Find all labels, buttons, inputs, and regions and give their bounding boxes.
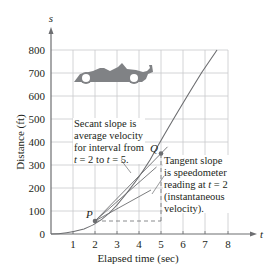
secant-line-3: for interval from (74, 142, 144, 153)
tangent-line (95, 190, 151, 221)
tangent-line-1: Tangent slope (164, 155, 223, 166)
secant-line-1: Secant slope is (74, 118, 136, 129)
x-tick-4: 4 (136, 238, 142, 250)
tangent-line-4: (instantaneous (164, 191, 225, 203)
distance-time-chart: 0 100 200 300 400 500 600 700 800 1 2 3 … (0, 0, 273, 277)
y-tick-100: 100 (29, 205, 46, 217)
x-tick-2: 2 (92, 238, 98, 250)
y-axis-title: Distance (ft) (14, 114, 27, 170)
tangent-line-3: reading at t = 2 (164, 179, 228, 190)
point-q-label: Q (150, 142, 158, 154)
x-axis-title: Elapsed time (sec) (97, 252, 179, 265)
point-p-marker (93, 219, 98, 224)
tangent-pointer (152, 176, 164, 194)
t-axis-symbol: t (260, 228, 264, 240)
y-tick-400: 400 (29, 136, 46, 148)
y-tick-300: 300 (29, 159, 46, 171)
x-tick-7: 7 (202, 238, 208, 250)
tangent-line-5: velocity). (164, 203, 204, 215)
y-axis-arrow-icon (49, 27, 54, 34)
y-tick-800: 800 (29, 44, 46, 56)
x-tick-5: 5 (158, 238, 164, 250)
y-tick-500: 500 (29, 113, 46, 125)
point-p-label: P (85, 208, 93, 220)
y-tick-700: 700 (29, 67, 46, 79)
secant-line-4: t = 2 to t = 5. (74, 154, 129, 165)
x-tick-3: 3 (114, 238, 120, 250)
y-tick-200: 200 (29, 182, 46, 194)
y-tick-labels: 0 100 200 300 400 500 600 700 800 (29, 44, 46, 240)
tangent-line-2: is speedometer (164, 167, 227, 178)
y-tick-600: 600 (29, 90, 46, 102)
y-tick-0: 0 (40, 228, 46, 240)
point-q-marker (159, 151, 164, 156)
race-car-icon (74, 63, 153, 84)
x-tick-1: 1 (70, 238, 76, 250)
x-tick-labels: 1 2 3 4 5 6 7 8 (70, 238, 231, 250)
x-tick-8: 8 (225, 238, 231, 250)
x-tick-6: 6 (180, 238, 186, 250)
secant-line-2: average velocity (74, 130, 144, 141)
x-axis-arrow-icon (250, 232, 257, 237)
s-axis-symbol: s (49, 12, 53, 24)
